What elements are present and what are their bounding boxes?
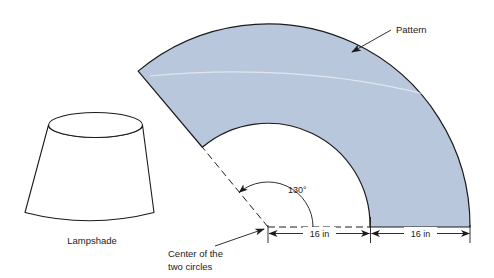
lampshade-top-rim <box>49 113 143 138</box>
radius-dashed-line-130deg <box>202 147 268 227</box>
pattern-shape-group <box>138 24 470 227</box>
lampshade-pattern-figure: Pattern 130° Center of the two circles 1… <box>0 0 494 278</box>
pattern-label: Pattern <box>396 24 427 35</box>
figure-canvas: Pattern 130° Center of the two circles 1… <box>0 0 494 278</box>
center-leader-line <box>215 229 264 246</box>
center-label-line-1: Center of the <box>168 248 223 259</box>
pattern-leader-line <box>352 30 391 52</box>
lampshade-label: Lampshade <box>67 235 117 246</box>
dimension-label-annulus-width: 16 in <box>411 229 431 239</box>
dimension-label-inner-radius: 16 in <box>310 229 330 239</box>
lampshade-body <box>25 125 154 221</box>
pattern-annular-sector <box>138 24 470 227</box>
center-label-line-2: two circles <box>168 261 213 272</box>
lampshade-shape-group <box>25 113 154 221</box>
angle-label-130: 130° <box>288 185 307 195</box>
